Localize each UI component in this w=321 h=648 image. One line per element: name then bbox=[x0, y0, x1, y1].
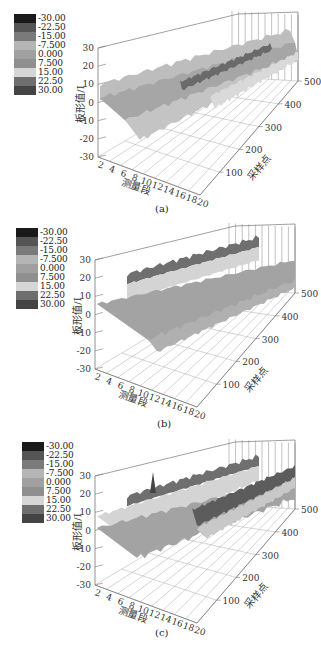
z-tick-label: 0 bbox=[85, 526, 91, 536]
y-tick-label: 200 bbox=[242, 357, 259, 367]
surface-plot: 3020100-10-20-30246810121416182010020030… bbox=[0, 220, 321, 435]
x-tick-label: 20 bbox=[196, 197, 210, 210]
panel-b: -30.00-22.50-15.00-7.5000.0007.50015.002… bbox=[0, 220, 321, 435]
y-tick-label: 200 bbox=[245, 145, 262, 155]
z-tick-label: 30 bbox=[80, 471, 92, 481]
z-tick-label: 0 bbox=[88, 98, 94, 108]
panel-a: -30.00-22.50-15.00-7.5000.0007.50015.002… bbox=[0, 0, 321, 215]
z-tick-label: 0 bbox=[85, 310, 91, 320]
surface-plot: 3020100-10-20-30246810121416182010020030… bbox=[0, 430, 321, 648]
y-tick-label: 400 bbox=[281, 312, 298, 322]
y-tick-label: 500 bbox=[301, 289, 318, 299]
y-tick-label: 300 bbox=[265, 123, 282, 133]
y-axis-label: 采样点 bbox=[242, 580, 270, 611]
z-axis-label: 板形值/I bbox=[74, 85, 86, 122]
x-tick-label: 2 bbox=[94, 372, 103, 383]
surface-plot: 3020100-10-20-30246810121416182010020030… bbox=[0, 0, 321, 215]
y-tick-label: 300 bbox=[262, 551, 279, 561]
x-tick-label: 4 bbox=[105, 592, 114, 603]
y-tick-label: 400 bbox=[284, 100, 301, 110]
panel-caption: (b) bbox=[157, 418, 171, 429]
y-tick-label: 400 bbox=[281, 528, 298, 538]
y-tick-label: 100 bbox=[223, 380, 240, 390]
x-tick-label: 20 bbox=[193, 409, 207, 422]
surface bbox=[97, 454, 295, 558]
z-tick-label: 30 bbox=[80, 255, 92, 265]
y-tick-label: 300 bbox=[262, 335, 279, 345]
y-axis-label: 采样点 bbox=[242, 364, 270, 395]
z-tick-label: -20 bbox=[80, 134, 95, 144]
z-tick-label: 20 bbox=[80, 273, 92, 283]
z-axis-label: 板形值/I bbox=[71, 513, 83, 550]
x-tick-label: 20 bbox=[193, 625, 207, 638]
y-tick-label: 500 bbox=[301, 505, 318, 515]
y-tick-label: 500 bbox=[304, 77, 321, 87]
x-tick-label: 4 bbox=[105, 376, 114, 387]
panel-caption: (a) bbox=[155, 203, 169, 214]
z-tick-label: -30 bbox=[80, 152, 95, 162]
z-tick-label: 20 bbox=[83, 61, 95, 71]
panel-c: -30.00-22.50-15.00-7.5000.0007.50015.002… bbox=[0, 430, 321, 648]
z-tick-label: -30 bbox=[77, 580, 92, 590]
y-tick-label: 100 bbox=[226, 168, 243, 178]
x-tick-label: 2 bbox=[97, 160, 106, 171]
z-tick-label: 30 bbox=[83, 43, 95, 53]
y-axis-label: 采样点 bbox=[245, 152, 273, 183]
z-tick-label: -20 bbox=[77, 562, 92, 572]
y-tick-label: 200 bbox=[242, 573, 259, 583]
y-tick-label: 100 bbox=[223, 596, 240, 606]
x-tick-label: 4 bbox=[108, 164, 117, 175]
z-tick-label: 20 bbox=[80, 489, 92, 499]
panel-caption: (c) bbox=[155, 627, 168, 638]
z-axis-label: 板形值/I bbox=[71, 297, 83, 334]
z-tick-label: -20 bbox=[77, 346, 92, 356]
x-tick-label: 2 bbox=[94, 588, 103, 599]
z-tick-label: -30 bbox=[77, 364, 92, 374]
